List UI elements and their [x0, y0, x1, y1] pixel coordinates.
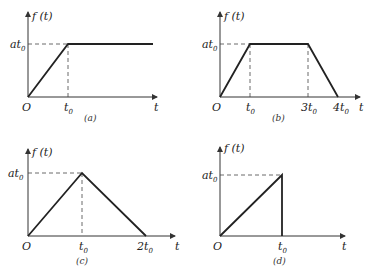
x-tick-label-t0: t0 — [278, 240, 287, 255]
panel-caption: (b) — [272, 113, 285, 123]
panel-c: f (t) at0 O t0 2t0 t (c) — [8, 146, 180, 266]
y-tick-label: at0 — [202, 169, 218, 184]
x-axis-label: t — [359, 101, 364, 114]
y-axis-label: f (t) — [31, 10, 53, 23]
signal-curve — [28, 44, 153, 97]
y-tick-label: at0 — [8, 167, 24, 182]
y-axis-label: f (t) — [223, 142, 245, 155]
panel-caption: (d) — [273, 256, 286, 266]
y-axis-label: f (t) — [31, 146, 53, 159]
figure-canvas: f (t) at0 O t0 t (a) f (t) at0 O t0 3t0 … — [0, 0, 372, 278]
origin-label: O — [22, 240, 31, 253]
origin-label: O — [22, 101, 31, 114]
panel-d: f (t) at0 O t0 t (d) — [202, 142, 347, 266]
x-axis-label: t — [175, 240, 180, 253]
panel-caption: (a) — [84, 113, 97, 123]
panel-b: f (t) at0 O t0 3t0 4t0 t (b) — [202, 10, 364, 123]
x-axis-label: t — [154, 101, 159, 114]
signal-curve — [220, 175, 282, 236]
x-tick-label-4t0: 4t0 — [332, 101, 349, 116]
y-tick-label: at0 — [10, 38, 26, 53]
origin-label: O — [212, 101, 221, 114]
panel-a: f (t) at0 O t0 t (a) — [10, 10, 159, 123]
x-tick-label-t0: t0 — [79, 240, 88, 255]
signal-curve — [220, 44, 338, 97]
signal-curve — [28, 173, 146, 236]
x-axis-label: t — [342, 240, 347, 253]
x-tick-label: t0 — [64, 101, 73, 116]
x-tick-label-3t0: 3t0 — [301, 101, 317, 116]
y-axis-label: f (t) — [223, 10, 245, 23]
x-tick-label-2t0: 2t0 — [136, 240, 153, 255]
origin-label: O — [213, 240, 222, 253]
y-tick-label: at0 — [202, 38, 218, 53]
panel-caption: (c) — [76, 256, 89, 266]
x-tick-label-t0: t0 — [246, 101, 255, 116]
